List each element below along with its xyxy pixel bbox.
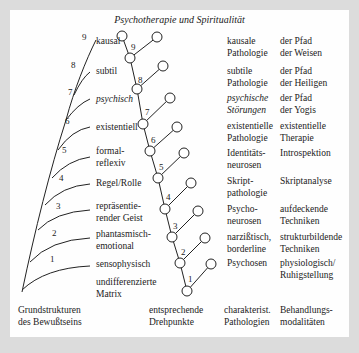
structure-label: formal- reflexiv xyxy=(96,146,126,169)
structure-level-8: 8 xyxy=(71,61,76,70)
treatment-label: aufdeckende Techniken xyxy=(280,204,328,227)
header-structures: Grundstrukturen des Bewußtseins xyxy=(18,305,82,328)
treatment-label: existentielle Therapie xyxy=(280,121,326,144)
header-fulcrums: entsprechende Drehpunkte xyxy=(149,305,203,328)
structure-level-2: 2 xyxy=(52,229,57,238)
branch-3 xyxy=(38,210,90,230)
structure-level-5: 5 xyxy=(62,146,67,155)
structure-level-4: 4 xyxy=(59,174,64,183)
structure-label: existentiell xyxy=(96,122,138,134)
pathology-label: narzißtisch, borderline xyxy=(227,232,271,255)
fulcrum-number-1: 1 xyxy=(188,275,193,284)
treatment-label: Skriptanalyse xyxy=(280,176,332,188)
pathology-label: kausale Pathologie xyxy=(227,36,268,59)
structure-label: kausal xyxy=(96,36,120,48)
header-pathologies: charakterist. Pathologien xyxy=(224,305,271,328)
branch-4 xyxy=(45,184,90,205)
branch-1 xyxy=(22,266,90,290)
treatment-label: der Pfad der Yogis xyxy=(280,93,316,116)
fulcrum-number-2: 2 xyxy=(181,248,186,257)
structure-level-7: 7 xyxy=(68,88,73,97)
fulcrum-number-7: 7 xyxy=(145,108,150,117)
branch-5 xyxy=(52,157,90,178)
treatment-label: der Pfad der Heiligen xyxy=(280,66,327,89)
pathology-label: Identitäts- neurosen xyxy=(227,148,266,171)
structure-level-3: 3 xyxy=(56,202,61,211)
pathology-label: Psycho- neurosen xyxy=(227,204,261,227)
structure-spine xyxy=(22,40,96,292)
treatment-label: physiologisch/ Ruhigstellung xyxy=(280,258,335,281)
structure-label: undifferenzierte Matrix xyxy=(96,277,156,300)
pathology-label: psychische Störungen xyxy=(227,93,268,116)
fulcrum-number-5: 5 xyxy=(159,163,164,172)
header-treatments: Behandlungs- modalitäten xyxy=(280,305,333,328)
treatment-label: der Pfad der Weisen xyxy=(280,36,322,59)
structure-label: repräsentie- render Geist xyxy=(96,201,143,224)
fulcrum-tree xyxy=(117,31,216,296)
fulcrum-number-3: 3 xyxy=(173,222,178,231)
fulcrum-number-6: 6 xyxy=(151,136,156,145)
pathology-label: Psychosen xyxy=(227,258,267,270)
treatment-label: Introspektion xyxy=(280,148,331,160)
pathology-label: Skript- pathologie xyxy=(227,176,267,199)
fulcrum-number-8: 8 xyxy=(138,76,143,85)
structure-label: psychisch xyxy=(96,94,133,106)
branch-2 xyxy=(30,238,90,262)
fulcrum-number-9: 9 xyxy=(131,43,136,52)
pathology-label: subtile Pathologie xyxy=(227,66,268,89)
fulcrum-number-4: 4 xyxy=(166,193,171,202)
branch-8 xyxy=(74,72,90,95)
structure-tree xyxy=(22,40,96,292)
structure-label: Regel/Rolle xyxy=(96,178,141,190)
structure-level-6: 6 xyxy=(65,117,70,126)
structure-label: phantasmisch- emotional xyxy=(96,229,151,252)
pathology-label: existentielle Pathologie xyxy=(227,121,273,144)
structure-level-1: 1 xyxy=(50,255,55,264)
structure-level-9: 9 xyxy=(82,33,87,42)
structure-label: sensophysisch xyxy=(96,259,150,271)
treatment-label: strukturbildende Techniken xyxy=(280,232,342,255)
structure-label: subtil xyxy=(96,66,117,78)
